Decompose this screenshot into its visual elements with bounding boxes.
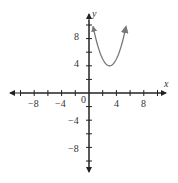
x-tick-label-m8: −8 bbox=[28, 98, 39, 109]
x-tick-label-m4: −4 bbox=[55, 98, 66, 109]
y-tick-label-m4: −4 bbox=[68, 115, 79, 126]
x-axis-label: x bbox=[163, 78, 169, 89]
coordinate-plane: x y 0 −8 −4 4 8 8 4 −4 −8 bbox=[0, 0, 178, 183]
origin-label: 0 bbox=[81, 94, 86, 105]
y-tick-label-4: 4 bbox=[74, 58, 79, 69]
parabola-left-arrow bbox=[93, 27, 94, 32]
x-tick-label-8: 8 bbox=[141, 98, 146, 109]
y-tick-label-8: 8 bbox=[74, 31, 79, 42]
parabola-curve bbox=[93, 27, 126, 66]
y-axis-label: y bbox=[91, 8, 97, 19]
x-tick-label-4: 4 bbox=[114, 98, 119, 109]
y-tick-label-m8: −8 bbox=[68, 143, 79, 154]
